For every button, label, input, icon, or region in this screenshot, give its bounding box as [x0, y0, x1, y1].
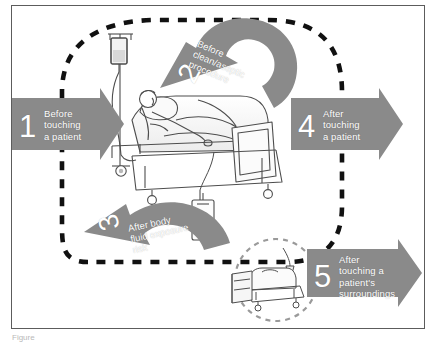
arrow-5-shape	[307, 239, 422, 307]
hand-hygiene-figure: 1 2 3 4 5 Before touching a patient Befo…	[0, 0, 434, 342]
arrow-1-shape	[12, 88, 124, 160]
arrow-4-shape	[291, 88, 403, 160]
bottom-caption: Figure	[12, 333, 312, 342]
hospital-bed-with-patient	[112, 90, 282, 204]
figure-graphics	[0, 0, 434, 342]
arrow-2-shape	[160, 18, 297, 108]
